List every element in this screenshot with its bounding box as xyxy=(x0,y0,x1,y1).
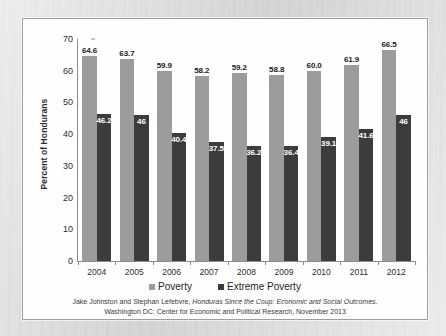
bar-group: 64.646.2 xyxy=(82,39,111,261)
bar-value-label-poverty: 58.2 xyxy=(194,66,209,75)
x-tick-label: 2007 xyxy=(200,267,219,277)
bar-value-label-extreme-poverty: 46 xyxy=(399,117,408,126)
bar-poverty[interactable]: 60.0 xyxy=(307,71,322,261)
bar-extreme-poverty[interactable]: 46.2 xyxy=(97,114,112,261)
x-tick-mark xyxy=(415,261,416,265)
bar-value-label-extreme-poverty: 41.6 xyxy=(358,131,373,140)
bar-extreme-poverty[interactable]: 40.4 xyxy=(172,133,187,261)
x-tick-label: 2005 xyxy=(125,267,144,277)
x-tick-label: 2004 xyxy=(87,267,106,277)
bar-extreme-poverty[interactable]: 46 xyxy=(134,115,149,261)
source-authors: Jake Johnston and Stephan Lefebvre, xyxy=(72,298,192,305)
y-tick-label: 40 xyxy=(41,129,73,139)
bar-group: 59.940.4 xyxy=(157,39,186,261)
x-axis-line xyxy=(77,261,415,262)
legend-swatch-icon xyxy=(218,284,224,290)
legend-item[interactable]: Poverty xyxy=(149,281,192,292)
bar-extreme-poverty[interactable]: 41.6 xyxy=(359,129,374,261)
y-tick-label: 60 xyxy=(41,66,73,76)
bar-group: 66.546 xyxy=(382,39,411,261)
x-tick-mark xyxy=(378,261,379,265)
x-tick-mark xyxy=(78,261,79,265)
bar-value-label-extreme-poverty: 36.4 xyxy=(284,148,299,157)
x-tick-label: 2009 xyxy=(274,267,293,277)
bars-layer: 64.646.263.74659.940.458.237.559.236.258… xyxy=(78,39,415,261)
bar-group: 58.237.5 xyxy=(195,39,224,261)
x-tick-mark xyxy=(115,261,116,265)
x-tick-label: 2011 xyxy=(350,267,368,277)
source-citation-line-1: Jake Johnston and Stephan Lefebvre, Hond… xyxy=(23,297,427,307)
bar-value-label-extreme-poverty: 37.5 xyxy=(209,144,224,153)
bar-extreme-poverty[interactable]: 46 xyxy=(396,115,411,261)
y-tick-label: 50 xyxy=(41,97,73,107)
chart-figure-panel: Percent of Hondurans 010203040506070 64.… xyxy=(22,18,428,320)
y-axis-tick-labels: 010203040506070 xyxy=(41,39,73,261)
x-tick-mark xyxy=(190,261,191,265)
bar-value-label-poverty: 59.2 xyxy=(232,63,247,72)
source-citation-line-2: Washington DC: Center for Economic and P… xyxy=(23,307,427,317)
x-tick-mark xyxy=(228,261,229,265)
y-tick-label: 30 xyxy=(41,161,73,171)
source-period: . xyxy=(376,298,378,305)
bar-value-label-poverty: 61.9 xyxy=(344,55,359,64)
bar-value-label-poverty: 58.8 xyxy=(269,65,284,74)
y-tick-label: 70 xyxy=(41,34,73,44)
x-tick-mark xyxy=(303,261,304,265)
bar-value-label-poverty: 60.0 xyxy=(307,61,322,70)
legend-swatch-icon xyxy=(149,284,155,290)
bar-extreme-poverty[interactable]: 39.1 xyxy=(321,137,336,261)
bar-group: 63.746 xyxy=(120,39,149,261)
bar-value-label-poverty: 66.5 xyxy=(381,40,396,49)
x-tick-label: 2006 xyxy=(162,267,181,277)
bar-group: 58.836.4 xyxy=(269,39,298,261)
bar-value-label-extreme-poverty: 40.4 xyxy=(171,135,186,144)
x-tick-label: 2012 xyxy=(387,267,406,277)
y-tick-label: 10 xyxy=(41,224,73,234)
bar-group: 60.039.1 xyxy=(307,39,336,261)
bar-extreme-poverty[interactable]: 37.5 xyxy=(209,142,224,261)
legend-label: Extreme Poverty xyxy=(227,281,301,292)
bar-value-label-poverty: 63.7 xyxy=(119,49,134,58)
bar-poverty[interactable]: 66.5 xyxy=(382,50,397,261)
bar-group: 61.941.6 xyxy=(344,39,373,261)
y-tick-label: 20 xyxy=(41,193,73,203)
bar-poverty[interactable]: 58.2 xyxy=(195,76,210,261)
x-tick-label: 2010 xyxy=(312,267,331,277)
source-citation: Jake Johnston and Stephan Lefebvre, Hond… xyxy=(23,297,427,316)
bar-value-label-poverty: 64.6 xyxy=(82,46,97,55)
source-work-title: Honduras Since the Coup: Economic and So… xyxy=(192,298,375,305)
legend-item[interactable]: Extreme Poverty xyxy=(218,281,301,292)
y-tick-label: 0 xyxy=(41,256,73,266)
scanned-page-background: Percent of Hondurans 010203040506070 64.… xyxy=(0,0,446,336)
x-tick-label: 2008 xyxy=(237,267,256,277)
bar-poverty[interactable]: 59.9 xyxy=(157,71,172,261)
legend-label: Poverty xyxy=(158,281,192,292)
bar-value-label-extreme-poverty: 46 xyxy=(137,117,146,126)
bar-poverty[interactable]: 64.6 xyxy=(82,56,97,261)
bar-extreme-poverty[interactable]: 36.4 xyxy=(284,146,299,261)
bar-value-label-extreme-poverty: 36.2 xyxy=(246,148,261,157)
bar-poverty[interactable]: 58.8 xyxy=(269,75,284,261)
x-tick-mark xyxy=(265,261,266,265)
plot-region: Percent of Hondurans 010203040506070 64.… xyxy=(23,19,427,319)
bar-poverty[interactable]: 61.9 xyxy=(344,65,359,261)
bar-extreme-poverty[interactable]: 36.2 xyxy=(247,146,262,261)
bar-value-label-extreme-poverty: 46.2 xyxy=(96,116,111,125)
bar-poverty[interactable]: 59.2 xyxy=(232,73,247,261)
bar-poverty[interactable]: 63.7 xyxy=(120,59,135,261)
x-tick-mark xyxy=(153,261,154,265)
chart-legend: PovertyExtreme Poverty xyxy=(23,281,427,292)
bar-group: 59.236.2 xyxy=(232,39,261,261)
x-tick-mark xyxy=(340,261,341,265)
bar-value-label-extreme-poverty: 39.1 xyxy=(321,139,336,148)
bar-value-label-poverty: 59.9 xyxy=(157,61,172,70)
